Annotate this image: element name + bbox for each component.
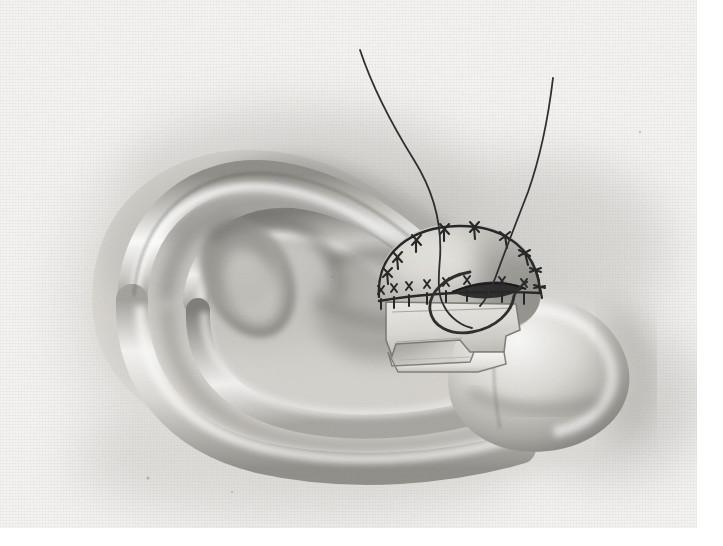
graphite-grain-overlay bbox=[0, 0, 700, 530]
illustration-figure: graphite pencil and charcoal drawing on … bbox=[0, 0, 723, 546]
ear-surgical-drawing bbox=[0, 0, 723, 546]
right-margin bbox=[697, 0, 723, 546]
bottom-margin bbox=[0, 528, 723, 546]
